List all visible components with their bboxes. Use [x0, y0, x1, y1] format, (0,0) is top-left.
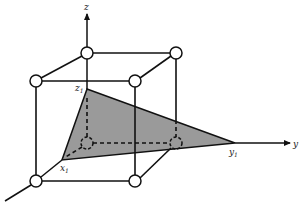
vertex-front-top-right — [129, 75, 141, 87]
x-axis-inner — [41, 160, 62, 177]
y1-label: y1 — [228, 147, 238, 158]
x1-label: x1 — [60, 163, 69, 174]
vertex-back-top-left — [81, 47, 93, 59]
x-axis — [5, 185, 31, 201]
vertex-front-top-left — [30, 75, 42, 87]
shaded-plane-triangle — [62, 89, 235, 160]
cube-plane-diagram: z y z1 x1 y1 — [0, 0, 302, 202]
vertex-back-top-right — [170, 47, 182, 59]
vertex-front-bottom-right — [129, 175, 141, 187]
z1-label: z1 — [74, 83, 84, 94]
vertex-front-bottom-left — [30, 175, 42, 187]
y-axis-label: y — [292, 139, 299, 149]
z-axis-label: z — [83, 2, 89, 12]
